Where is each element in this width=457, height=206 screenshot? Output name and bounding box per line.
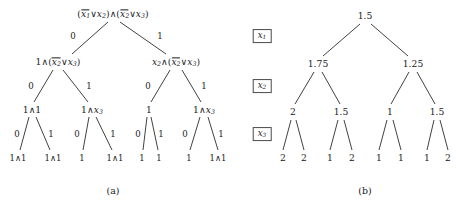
tree-edge xyxy=(330,120,338,150)
tree-edge xyxy=(344,120,352,150)
tree-a-leaf-node: 1∧1 xyxy=(10,154,27,162)
branching-variable-box-x2: x2 xyxy=(253,79,272,93)
tree-a-edge-label: 1 xyxy=(158,129,163,139)
tree-a-edge-label: 1 xyxy=(218,129,223,139)
tree-b-node: 1.25 xyxy=(403,59,423,68)
tree-a-leaf-node: 1 xyxy=(139,154,144,162)
tree-a-node: 1∧(x2∨x3) xyxy=(36,57,81,66)
branching-variable-box-x3: x3 xyxy=(253,127,272,141)
tree-a-leaf-node: 1 xyxy=(79,154,84,162)
tree-a-leaf-node: 1 xyxy=(156,154,161,162)
tree-b-node: 1.5 xyxy=(430,107,445,116)
tree-edge xyxy=(182,70,201,102)
tree-a-leaf-node: 1∧1 xyxy=(210,154,227,162)
tree-edge xyxy=(322,72,340,104)
tree-b-node: 1.75 xyxy=(308,59,328,68)
tree-edge xyxy=(440,120,448,150)
variable-index: 2 xyxy=(263,84,267,90)
tree-a-edge-label: 1 xyxy=(110,129,115,139)
tree-b-node: 1.5 xyxy=(334,107,349,116)
tree-edge xyxy=(83,117,89,150)
tree-b-edges xyxy=(283,24,448,150)
panel-caption-b: (b) xyxy=(358,185,371,196)
tree-a-edge-label: 1 xyxy=(86,81,91,91)
tree-edge xyxy=(20,117,29,150)
tree-b-node: 1 xyxy=(424,153,430,162)
tree-a-edge-label: 0 xyxy=(135,129,140,139)
tree-edge xyxy=(283,120,291,150)
tree-a-edge-label: 0 xyxy=(182,129,187,139)
branching-variable-box-x1: x1 xyxy=(253,29,272,43)
tree-a-node: 1∧x3 xyxy=(81,105,103,114)
tree-edge xyxy=(323,24,360,56)
tree-edge xyxy=(417,72,435,104)
tree-b-node: 1.5 xyxy=(358,11,373,20)
tree-edge xyxy=(143,117,147,150)
tree-a-node: 1∧x3 xyxy=(193,105,215,114)
tree-a-leaf-node: 1∧1 xyxy=(107,154,124,162)
tree-edge xyxy=(391,72,409,104)
tree-b-node: 2 xyxy=(301,153,307,162)
tree-edge xyxy=(151,70,170,102)
tree-b-node: 2 xyxy=(349,153,355,162)
tree-edge xyxy=(63,70,88,102)
tree-a-leaf-node: 1∧1 xyxy=(45,154,62,162)
tree-b-node: 2 xyxy=(290,107,296,116)
tree-edge xyxy=(371,24,408,56)
tree-edge xyxy=(151,117,158,150)
tree-b-node: 1 xyxy=(398,153,404,162)
tree-a-edge-label: 1 xyxy=(48,129,53,139)
tree-b-node: 2 xyxy=(445,153,451,162)
tree-a-edge-label: 0 xyxy=(70,31,75,41)
tree-a-edge-label: 1 xyxy=(157,31,162,41)
tree-edge xyxy=(190,117,200,150)
panel-caption-a: (a) xyxy=(107,185,120,196)
tree-a-node: (x1∨x2)∧(x2∨x3) xyxy=(77,9,148,18)
variable-index: 1 xyxy=(263,34,267,40)
variable-index: 3 xyxy=(263,132,267,138)
tree-a-edge-label: 0 xyxy=(145,81,150,91)
tree-a-node: x2∧(x2∨x3) xyxy=(152,57,200,66)
tree-b-node: 1 xyxy=(376,153,382,162)
tree-a-edge-label: 0 xyxy=(74,129,79,139)
tree-edge xyxy=(296,120,304,150)
tree-a-leaf-node: 1 xyxy=(186,154,191,162)
tree-edge xyxy=(208,117,218,150)
tree-b-node: 1 xyxy=(387,107,393,116)
tree-edge xyxy=(427,120,434,150)
figure-two-search-trees: (x1∨x2)∧(x2∨x3)1∧(x2∨x3)x2∧(x2∨x3)1∧11∧x… xyxy=(0,0,457,206)
tree-edge xyxy=(295,72,314,104)
tree-edge xyxy=(393,120,401,150)
tree-b-node: 1 xyxy=(327,153,333,162)
tree-edge xyxy=(34,70,53,102)
tree-a-node: 1∧1 xyxy=(23,105,41,114)
tree-a-edge-label: 0 xyxy=(14,129,19,139)
tree-b-node: 2 xyxy=(280,153,286,162)
tree-edge xyxy=(379,120,387,150)
tree-edge xyxy=(72,22,108,54)
tree-edges-layer xyxy=(0,0,457,206)
tree-a-edge-label: 1 xyxy=(201,81,206,91)
tree-a-edge-label: 0 xyxy=(28,81,33,91)
tree-a-node: 1 xyxy=(146,105,152,114)
